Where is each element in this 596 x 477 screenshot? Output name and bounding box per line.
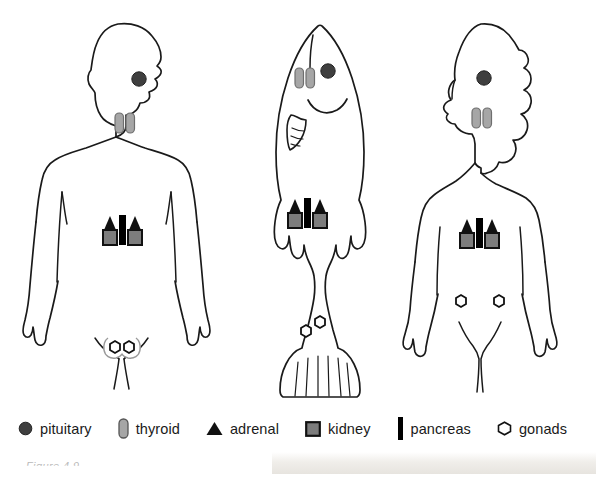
female-pituitary-symbol (477, 71, 491, 85)
legend-label-kidney: kidney (328, 421, 371, 437)
male-left-armpit (62, 192, 67, 224)
female-hip-right (481, 322, 501, 392)
male-kidney-symbol-right (128, 230, 142, 245)
legend-item-kidney: kidney (305, 421, 371, 437)
female-adrenal-symbol-right (486, 219, 498, 233)
male-left-arm-outline (23, 222, 58, 345)
filled-circle-icon (18, 421, 33, 436)
filled-square-icon (305, 421, 321, 437)
organism-fish (274, 25, 365, 397)
legend-label-pancreas: pancreas (411, 421, 471, 437)
male-adrenal-symbol-left (104, 216, 116, 230)
male-legs (114, 359, 129, 389)
male-torso-outline-left (36, 137, 116, 222)
male-pancreas-symbol (119, 215, 126, 245)
legend-item-pituitary: pituitary (18, 421, 92, 437)
male-kidney-symbol-left (103, 230, 117, 245)
female-thyroid-symbol-right (483, 108, 492, 128)
organism-diagram-svg (0, 0, 596, 405)
male-pituitary-symbol (132, 72, 146, 86)
fish-kidney-symbol-left (288, 213, 302, 228)
organism-human-male (23, 24, 210, 389)
male-gonad-symbol-right (124, 341, 134, 353)
female-left-arm-inner (437, 227, 440, 295)
female-adrenal-kidney-pancreas-cluster (460, 218, 499, 248)
male-left-arm-inner (57, 192, 62, 282)
legend-label-gonads: gonads (519, 421, 567, 437)
figure-caption: Figure 4.9 (26, 460, 80, 472)
organism-human-female (403, 24, 557, 392)
fish-adrenal-kidney-pancreas-cluster (288, 198, 327, 228)
page-edge-band (272, 452, 596, 474)
legend-item-thyroid: thyroid (118, 418, 180, 439)
female-adrenal-symbol-left (461, 219, 473, 233)
fish-thyroid-symbol-right (306, 68, 315, 88)
female-gonad-symbol-right (494, 295, 504, 307)
female-right-arm-outline (522, 262, 557, 356)
male-right-arm-outline (175, 222, 210, 345)
legend-item-adrenal: adrenal (206, 421, 279, 437)
female-kidney-symbol-left (460, 233, 474, 248)
fish-kidney-symbol-right (313, 213, 327, 228)
filled-triangle-icon (206, 421, 223, 436)
male-adrenal-symbol-right (129, 216, 141, 230)
male-gonad-symbol-left (110, 341, 120, 353)
male-thyroid-symbol-left (115, 113, 124, 133)
female-gonad-symbol-left (456, 295, 466, 307)
diagram-area (0, 0, 596, 405)
female-hip-left (459, 322, 479, 392)
female-pancreas-symbol (476, 218, 483, 248)
hollow-hexagon-icon (497, 421, 512, 436)
female-kidney-symbol-right (485, 233, 499, 248)
male-head-outline (88, 24, 161, 137)
female-left-arm-outline (403, 262, 438, 356)
female-right-arm-inner (520, 227, 523, 295)
male-right-arm-inner (171, 192, 176, 282)
female-thyroid-symbol-left (472, 108, 481, 128)
legend-label-pituitary: pituitary (40, 421, 92, 437)
fish-pancreas-symbol (304, 198, 311, 228)
fish-gonad-symbol-right (315, 316, 325, 328)
endocrine-figure: pituitary thyroid adrenal (0, 0, 596, 477)
fish-thyroid-symbol-left (295, 68, 304, 88)
fish-gonad-symbol-left (301, 325, 311, 337)
male-thyroid-symbol-right (126, 113, 135, 133)
legend-item-pancreas: pancreas (397, 417, 471, 440)
legend-item-gonads: gonads (497, 421, 567, 437)
fish-pituitary-symbol (321, 64, 335, 78)
male-adrenal-kidney-pancreas-cluster (103, 215, 142, 245)
male-torso-outline (116, 137, 197, 222)
legend-label-thyroid: thyroid (136, 421, 180, 437)
legend: pituitary thyroid adrenal (0, 405, 596, 452)
caption-area: Figure 4.9 (0, 452, 596, 477)
legend-label-adrenal: adrenal (230, 421, 279, 437)
female-head-hair-outline (444, 24, 531, 174)
rounded-pill-icon (118, 418, 129, 439)
male-right-armpit (166, 192, 171, 224)
vertical-bar-icon (397, 417, 404, 440)
